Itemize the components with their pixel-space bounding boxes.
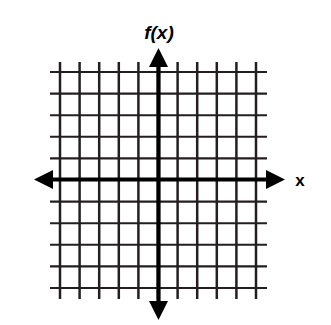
figure-container: f(x) x [0,0,331,325]
coordinate-plane-graphic: f(x) x [0,0,331,325]
y-axis-label: f(x) [144,22,174,43]
canvas-background [0,0,331,325]
x-axis-label: x [295,171,305,190]
